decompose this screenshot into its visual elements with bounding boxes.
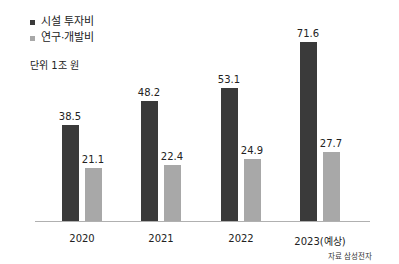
bar-rnd-2023 [323,152,340,221]
value-label: 38.5 [50,111,90,122]
category-label: 2023(예상) [280,233,360,248]
category-label: 2021 [121,233,201,244]
bar-facility-2023 [300,42,317,221]
value-label: 48.2 [129,87,169,98]
bar-rnd-2022 [244,159,261,221]
bar-chart: 38.5 21.1 2020 48.2 22.4 2021 53.1 24.9 … [0,0,399,264]
bar-rnd-2021 [164,165,181,221]
value-label: 27.7 [311,138,351,149]
bar-rnd-2020 [85,168,102,221]
value-label: 53.1 [209,74,249,85]
category-label: 2022 [201,233,281,244]
bar-facility-2020 [62,125,79,221]
value-label: 21.1 [73,154,113,165]
value-label: 22.4 [152,151,192,162]
category-label: 2020 [42,233,122,244]
value-label: 71.6 [288,28,328,39]
value-label: 24.9 [232,145,272,156]
source-note: 자료 삼성전자 [328,250,372,261]
x-axis-line [35,221,370,222]
